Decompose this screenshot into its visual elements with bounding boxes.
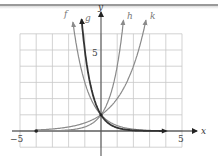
label-h: h xyxy=(127,11,133,21)
curve-g xyxy=(82,19,166,131)
x-axis-label: x xyxy=(201,126,206,136)
x-tick-max-label: 5 xyxy=(178,134,184,144)
y-axis-label: y xyxy=(97,2,104,12)
curve-h xyxy=(36,20,123,131)
y-tick-label: 5 xyxy=(92,48,98,58)
right-endpoint-arrow-icon xyxy=(162,129,168,134)
x-tick-min-label: −5 xyxy=(10,134,24,144)
intersection-point xyxy=(99,113,102,116)
left-endpoint-marker xyxy=(34,129,38,133)
axes: x y −5 5 5 xyxy=(10,2,206,156)
function-labels: f g h k xyxy=(63,9,155,23)
label-k: k xyxy=(150,11,155,21)
label-g: g xyxy=(85,13,91,23)
exponential-chart: x y −5 5 5 f g h k xyxy=(0,0,218,166)
label-f: f xyxy=(63,9,69,19)
